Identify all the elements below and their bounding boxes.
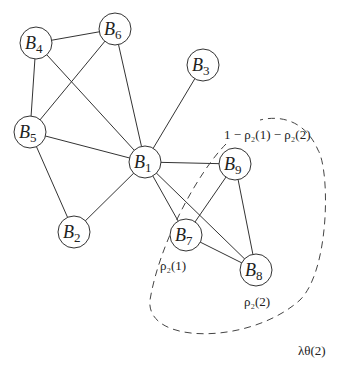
nodes: B4 B6 B5 B1 B3 B2 B9 B7 B8 (14, 13, 272, 286)
node-b2: B2 (58, 216, 90, 248)
edge-b5-b1 (30, 132, 145, 162)
node-b8: B8 (240, 254, 272, 286)
node-b4: B4 (20, 27, 52, 59)
network-diagram: B4 B6 B5 B1 B3 B2 B9 B7 B8 1 − ρ₂(1) − ρ… (0, 0, 346, 367)
node-b9: B9 (219, 148, 251, 180)
node-b7: B7 (170, 219, 202, 251)
node-b6: B6 (99, 13, 131, 45)
edge-b4-b1 (36, 43, 145, 162)
label-lambda-theta: λθ(2) (298, 343, 326, 358)
label-rho-1: ρ₂(1) (160, 258, 186, 273)
node-b1: B1 (129, 146, 161, 178)
edge-b3-b1 (145, 65, 203, 162)
edge-b6-b1 (115, 29, 145, 162)
node-b3: B3 (187, 49, 219, 81)
node-b5: B5 (14, 116, 46, 148)
label-top-probability: 1 − ρ₂(1) − ρ₂(2) (224, 127, 311, 142)
label-rho-2: ρ₂(2) (244, 294, 270, 309)
